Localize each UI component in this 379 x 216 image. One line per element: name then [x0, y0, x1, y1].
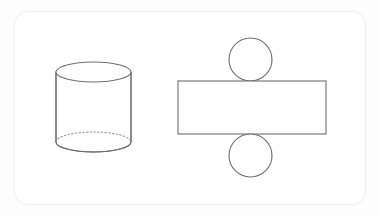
net-top-circle	[229, 38, 272, 81]
diagram-canvas	[0, 0, 379, 216]
net-bottom-circle	[229, 134, 272, 177]
net-rectangle	[178, 81, 326, 134]
geometry-diagram-svg	[0, 0, 379, 216]
cylinder-body-face	[56, 72, 131, 152]
figure-layer	[0, 0, 379, 216]
cylinder-top-ellipse	[56, 62, 131, 82]
cylinder-shape	[56, 62, 131, 152]
cylinder-net-shape	[178, 38, 326, 177]
